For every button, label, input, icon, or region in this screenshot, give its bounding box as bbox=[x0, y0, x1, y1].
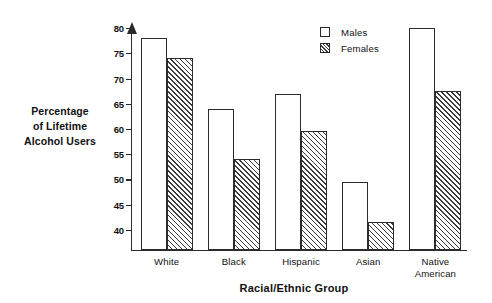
x-axis-title: Racial/Ethnic Group bbox=[0, 282, 492, 294]
chart-legend: MalesFemales bbox=[320, 24, 379, 56]
legend-item-females: Females bbox=[320, 40, 379, 56]
y-tick-mark bbox=[126, 79, 131, 80]
y-tick-label: 40 bbox=[114, 224, 124, 235]
bar-white-females bbox=[167, 58, 193, 250]
open-square-icon bbox=[320, 27, 330, 37]
y-axis-title-line-1: Percentage bbox=[8, 104, 112, 119]
y-tick-label: 50 bbox=[114, 174, 124, 185]
y-tick-label: 60 bbox=[114, 123, 124, 134]
bar-native-american-males bbox=[409, 28, 435, 250]
bar-black-males bbox=[208, 109, 234, 250]
bar-hispanic-males bbox=[275, 94, 301, 250]
y-axis-title-line-2: of Lifetime bbox=[8, 119, 112, 134]
y-tick-mark bbox=[126, 154, 131, 155]
x-category-label-asian: Asian bbox=[356, 256, 381, 268]
legend-label: Females bbox=[341, 43, 379, 54]
x-axis-line bbox=[131, 250, 467, 251]
bar-hispanic-females bbox=[301, 131, 327, 250]
y-tick-mark bbox=[126, 205, 131, 206]
bar-black-females bbox=[234, 159, 260, 250]
y-tick-mark bbox=[126, 53, 131, 54]
y-tick-label: 45 bbox=[114, 199, 124, 210]
x-category-label-black: Black bbox=[222, 256, 246, 268]
y-tick-label: 80 bbox=[114, 23, 124, 34]
x-category-label-hispanic: Hispanic bbox=[282, 256, 320, 268]
y-tick-label: 70 bbox=[114, 73, 124, 84]
y-axis-title-line-3: Alcohol Users bbox=[8, 134, 112, 149]
y-tick-label: 55 bbox=[114, 149, 124, 160]
bar-asian-males bbox=[342, 182, 368, 250]
bar-chart-figure: Percentage of Lifetime Alcohol Users 404… bbox=[0, 0, 492, 303]
y-tick-mark bbox=[126, 179, 131, 180]
legend-label: Males bbox=[341, 27, 367, 38]
y-tick-label: 75 bbox=[114, 48, 124, 59]
y-tick-mark bbox=[126, 129, 131, 130]
y-axis-title: Percentage of Lifetime Alcohol Users bbox=[8, 104, 112, 149]
y-axis-line bbox=[131, 24, 132, 250]
plot-area: 404550556065707580 WhiteBlackHispanicAsi… bbox=[131, 18, 467, 250]
y-tick-label: 65 bbox=[114, 98, 124, 109]
legend-item-males: Males bbox=[320, 24, 379, 40]
bar-native-american-females bbox=[435, 91, 461, 250]
y-tick-mark bbox=[126, 230, 131, 231]
x-category-label-white: White bbox=[154, 256, 179, 268]
y-tick-mark bbox=[126, 28, 131, 29]
x-category-label-native-american: Native American bbox=[415, 256, 456, 279]
bar-asian-females bbox=[368, 222, 394, 250]
x-axis-title-text: Racial/Ethnic Group bbox=[240, 282, 349, 294]
hatched-square-icon bbox=[320, 43, 330, 53]
bar-white-males bbox=[141, 38, 167, 250]
y-tick-mark bbox=[126, 104, 131, 105]
